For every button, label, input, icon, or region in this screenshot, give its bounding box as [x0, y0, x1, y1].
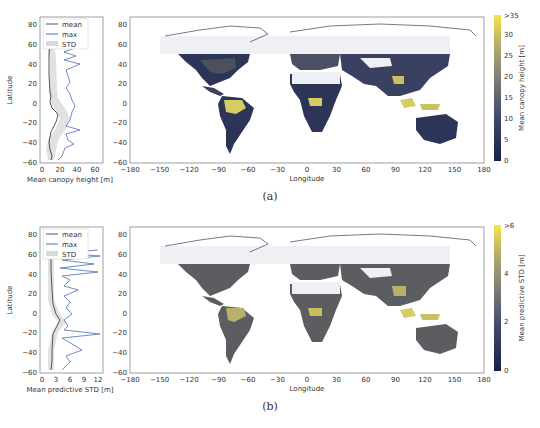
ytick: 60 — [118, 251, 127, 259]
colorbar-b: 0 2 4 >6 Mean predictive STD [m] — [494, 222, 526, 375]
caption-b: (b) — [0, 400, 540, 413]
legend-std-a: STD — [62, 41, 76, 49]
cbar-tick: >35 — [504, 12, 519, 20]
legend-mean-b: mean — [62, 231, 82, 239]
xtick: 180 — [477, 376, 490, 384]
ytick: 80 — [28, 231, 37, 239]
xtick: 150 — [448, 376, 461, 384]
cbar-tick: 25 — [504, 52, 513, 60]
ytick: 0 — [33, 310, 37, 318]
x-axis-label-b: Mean predictive STD [m] — [27, 386, 114, 394]
xtick: −180 — [120, 166, 139, 174]
panel-a: mean max STD 80 60 40 20 0 −20 −40 −60 0… — [0, 0, 540, 210]
legend-max-a: max — [62, 31, 77, 39]
ytick: −40 — [112, 349, 127, 357]
xtick: 120 — [418, 166, 431, 174]
xtick: 0 — [305, 376, 309, 384]
ytick: −20 — [22, 329, 37, 337]
xtick: 60 — [91, 166, 100, 174]
xtick: 90 — [391, 166, 400, 174]
map-axes-a — [130, 17, 484, 163]
ytick: 20 — [118, 80, 127, 88]
xtick: 30 — [332, 166, 341, 174]
xtick: 9 — [82, 376, 86, 384]
ytick: −40 — [22, 349, 37, 357]
xtick: 3 — [54, 376, 58, 384]
cbar-tick: 5 — [504, 136, 508, 144]
cbar-tick: >6 — [504, 222, 515, 230]
ytick: 0 — [123, 310, 127, 318]
colorbar-label-b: Mean predictive STD [m] — [518, 254, 526, 341]
ytick: −40 — [22, 139, 37, 147]
panel-b-svg: mean max STD 80 60 40 20 0 −20 −40 −60 0… — [0, 210, 540, 420]
ytick: 60 — [28, 41, 37, 49]
ytick: 80 — [28, 21, 37, 29]
panel-a-svg: mean max STD 80 60 40 20 0 −20 −40 −60 0… — [0, 0, 540, 210]
ytick: 0 — [33, 100, 37, 108]
cbar-tick: 10 — [504, 115, 513, 123]
xtick: −60 — [241, 166, 256, 174]
xtick: 180 — [477, 166, 490, 174]
cbar-tick: 0 — [504, 157, 508, 165]
xtick: 30 — [332, 376, 341, 384]
cbar-tick: 4 — [504, 270, 509, 278]
ytick: 40 — [118, 271, 127, 279]
panel-b: mean max STD 80 60 40 20 0 −20 −40 −60 0… — [0, 210, 540, 420]
colorbar-a: 0 5 10 15 20 25 30 >35 Mean canopy heigh… — [494, 12, 526, 165]
xtick: −180 — [120, 376, 139, 384]
cbar-tick: 30 — [504, 31, 513, 39]
ytick: −60 — [22, 159, 37, 167]
cbar-tick: 20 — [504, 73, 513, 81]
y-axis-label-b: Latitude — [6, 286, 14, 315]
xtick: 12 — [94, 376, 103, 384]
ytick: −20 — [22, 119, 37, 127]
xtick: 0 — [40, 376, 44, 384]
xtick: −60 — [241, 376, 256, 384]
xtick: −150 — [150, 166, 169, 174]
ytick: 60 — [118, 41, 127, 49]
ytick: 20 — [28, 80, 37, 88]
ytick: 60 — [28, 251, 37, 259]
xtick: 0 — [305, 166, 309, 174]
cbar-tick: 2 — [504, 318, 508, 326]
xtick: −150 — [150, 376, 169, 384]
xtick: −30 — [270, 376, 285, 384]
xtick: −90 — [211, 376, 226, 384]
ytick: 80 — [118, 231, 127, 239]
legend-max-b: max — [62, 241, 77, 249]
map-x-axis-label-a: Longitude — [290, 175, 325, 183]
xtick: 150 — [448, 166, 461, 174]
xtick: −120 — [179, 376, 198, 384]
map-x-axis-label-b: Longitude — [290, 385, 325, 393]
xtick: −120 — [179, 166, 198, 174]
ytick: 80 — [118, 21, 127, 29]
y-axis-label-a: Latitude — [6, 76, 14, 105]
ytick: −20 — [112, 119, 127, 127]
xtick: 6 — [68, 376, 73, 384]
x-axis-label-a: Mean canopy height [m] — [27, 176, 113, 184]
xtick: 120 — [418, 376, 431, 384]
xtick: 60 — [362, 166, 371, 174]
colorbar-label-a: Mean canopy height [m] — [518, 45, 526, 131]
ytick: 20 — [118, 290, 127, 298]
xtick: 40 — [73, 166, 82, 174]
ytick: 0 — [123, 100, 127, 108]
xtick: 0 — [40, 166, 44, 174]
ytick: −60 — [22, 369, 37, 377]
ytick: 40 — [28, 61, 37, 69]
map-axes-b — [130, 227, 484, 373]
xtick: −30 — [270, 166, 285, 174]
xtick: −90 — [211, 166, 226, 174]
ytick: −40 — [112, 139, 127, 147]
profile-axes-a: mean max STD 80 60 40 20 0 −20 −40 −60 0… — [6, 17, 113, 184]
legend-std-b: STD — [62, 251, 76, 259]
cbar-tick: 15 — [504, 94, 513, 102]
ytick: 20 — [28, 290, 37, 298]
xtick: 20 — [56, 166, 65, 174]
caption-a: (a) — [0, 190, 540, 203]
ytick: 40 — [28, 271, 37, 279]
cbar-tick: 0 — [504, 367, 508, 375]
ytick: 40 — [118, 61, 127, 69]
profile-axes-b: mean max STD 80 60 40 20 0 −20 −40 −60 0… — [6, 227, 114, 394]
xtick: 60 — [362, 376, 371, 384]
